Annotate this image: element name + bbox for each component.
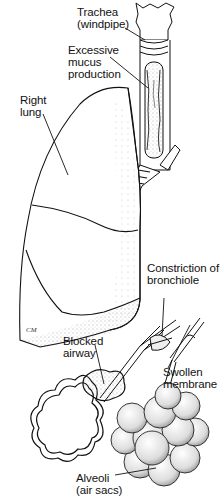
alveoli-drawing xyxy=(111,383,209,486)
right-lung-drawing: CM xyxy=(20,87,141,347)
asthma-lung-illustration: CM xyxy=(0,0,222,502)
label-mucus-production: Excessive mucus production xyxy=(68,44,121,80)
label-blocked-airway: Blocked airway xyxy=(63,335,103,359)
label-swollen-membrane: Swollen membrane xyxy=(163,366,217,390)
blocked-airway-drawing xyxy=(31,370,125,462)
label-constriction-of-bronchiole: Constriction of bronchiole xyxy=(147,262,219,286)
artist-signature: CM xyxy=(26,326,38,334)
label-right-lung: Right lung xyxy=(20,94,46,118)
label-alveoli: Alveoli (air sacs) xyxy=(76,472,122,496)
label-trachea: Trachea (windpipe) xyxy=(77,6,129,30)
